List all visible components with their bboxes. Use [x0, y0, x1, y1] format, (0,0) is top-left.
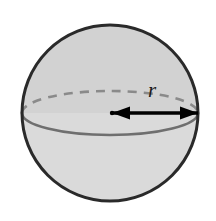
radius-label: r: [148, 78, 157, 102]
sphere-diagram-canvas: r: [0, 0, 216, 221]
sphere-center-point: [110, 111, 114, 115]
sphere-lower-hemisphere-fill: [0, 113, 216, 221]
sphere-diagram-svg: r: [0, 0, 216, 221]
sphere-upper-hemisphere-fill: [0, 0, 216, 114]
